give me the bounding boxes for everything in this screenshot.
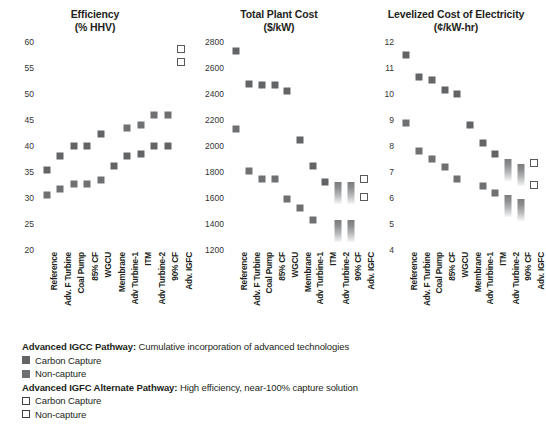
y-tick-label: 10 — [370, 90, 394, 99]
x-tick-label: Adv. F Turbine — [253, 252, 262, 306]
y-tick-label: 9 — [370, 116, 394, 125]
x-tick-label: Adv Turbine-1 — [486, 252, 495, 305]
data-point — [416, 74, 423, 81]
x-tick-label: Adv. F Turbine — [64, 252, 73, 306]
y-tick-label: 4 — [370, 246, 394, 255]
data-point — [271, 175, 278, 182]
x-tick-label: 85% CF — [91, 252, 100, 281]
data-point — [335, 182, 342, 204]
data-point — [70, 143, 77, 150]
data-point — [233, 48, 240, 55]
x-tick-label: Reference — [410, 252, 419, 290]
x-axis-lcoe: ReferenceAdv. F TurbineCoal Pump85% CFWG… — [400, 252, 540, 338]
data-point — [454, 91, 461, 98]
legend-heading-text: Advanced IGCC Pathway: — [22, 341, 138, 352]
y-tick-label: 12 — [370, 38, 394, 47]
y-tick-label: 30 — [0, 194, 34, 203]
data-point — [284, 88, 291, 95]
y-tick-label: 2600 — [186, 64, 224, 73]
data-point — [111, 162, 118, 169]
y-tick-label: 5 — [370, 220, 394, 229]
y-tick-label: 45 — [0, 116, 34, 125]
data-point — [428, 156, 435, 163]
data-point — [322, 179, 329, 186]
data-point — [428, 76, 435, 83]
chart-title-line2: ($/kW) — [186, 21, 372, 34]
data-point — [441, 87, 448, 94]
data-point — [84, 181, 91, 188]
x-tick-label: Membrane — [118, 252, 127, 292]
data-point — [403, 52, 410, 59]
plot-area-lcoe — [400, 42, 540, 250]
data-point-open — [530, 181, 538, 189]
x-tick-label: ITM — [329, 252, 338, 266]
legend-item: Non-capture — [22, 367, 542, 381]
y-tick-label: 2800 — [186, 38, 224, 47]
x-tick-label: Coal Pump — [265, 252, 274, 294]
plot-lcoe: 456789101112 — [370, 42, 542, 250]
legend-heading-text: Advanced IGFC Alternate Pathway: — [22, 382, 180, 393]
data-point — [479, 140, 486, 147]
x-tick-label: Adv Turbine-2 — [512, 252, 521, 305]
legend-item: Non-capture — [22, 408, 542, 422]
data-point — [309, 162, 316, 169]
data-point — [335, 220, 342, 242]
data-point — [492, 189, 499, 196]
data-point — [454, 175, 461, 182]
data-point — [284, 196, 291, 203]
chart-title-total-plant-cost: Total Plant Cost ($/kW) — [186, 0, 372, 34]
chart-title-line1: Total Plant Cost — [186, 8, 372, 21]
legend-item-label: Non-capture — [35, 408, 86, 422]
data-point — [137, 122, 144, 129]
data-point-open — [530, 159, 538, 167]
x-tick-label: Membrane — [474, 252, 483, 292]
y-tick-label: 1600 — [186, 194, 224, 203]
y-tick-label: 1200 — [186, 246, 224, 255]
chart-title-line1: Efficiency — [0, 8, 190, 21]
chart-title-line2: (% HHV) — [0, 21, 190, 34]
chart-title-line1: Levelized Cost of Electricity — [370, 8, 542, 21]
chart-panel-lcoe: Levelized Cost of Electricity (¢/kW-hr) … — [370, 0, 542, 340]
legend-group-heading: Advanced IGCC Pathway: Cumulative incorp… — [22, 340, 542, 354]
data-point — [246, 167, 253, 174]
legend-item-label: Carbon Capture — [35, 394, 101, 408]
y-tick-label: 55 — [0, 64, 34, 73]
x-axis-efficiency: ReferenceAdv. F TurbineCoal Pump85% CFWG… — [40, 252, 188, 338]
x-tick-label: Adv Turbine-1 — [131, 252, 140, 305]
data-point — [137, 151, 144, 158]
x-tick-label: 85% CF — [278, 252, 287, 281]
data-point-open — [360, 193, 368, 201]
legend-swatch-open-square — [22, 410, 30, 418]
y-tick-label: 2000 — [186, 142, 224, 151]
x-tick-label: WGCU — [291, 252, 300, 277]
y-tick-label: 1800 — [186, 168, 224, 177]
plot-area-efficiency — [40, 42, 188, 250]
data-point — [151, 143, 158, 150]
data-point — [258, 81, 265, 88]
y-tick-label: 50 — [0, 90, 34, 99]
plot-total-plant-cost: 120014001600180020002200240026002800 — [186, 42, 372, 250]
data-point-open — [177, 45, 185, 53]
x-tick-label: Coal Pump — [435, 252, 444, 294]
data-point — [246, 80, 253, 87]
data-point — [517, 164, 524, 186]
y-tick-label: 25 — [0, 220, 34, 229]
legend-swatch-filled-square-gray — [22, 370, 30, 378]
data-point-open — [360, 175, 368, 183]
data-point — [124, 153, 131, 160]
data-point — [164, 143, 171, 150]
x-tick-label: ITM — [499, 252, 508, 266]
data-point — [57, 153, 64, 160]
x-axis-total-plant-cost: ReferenceAdv. F TurbineCoal Pump85% CFWG… — [230, 252, 370, 338]
x-tick-label: Coal Pump — [77, 252, 86, 294]
data-point — [297, 205, 304, 212]
legend-item-label: Non-capture — [35, 367, 86, 381]
data-point — [271, 81, 278, 88]
y-tick-label: 6 — [370, 194, 394, 203]
data-point — [347, 220, 354, 242]
chart-title-line2: (¢/kW-hr) — [370, 21, 542, 34]
data-point — [505, 159, 512, 181]
y-tick-label: 11 — [370, 64, 394, 73]
figure-legend: Advanced IGCC Pathway: Cumulative incorp… — [0, 340, 542, 420]
x-tick-label: Membrane — [304, 252, 313, 292]
